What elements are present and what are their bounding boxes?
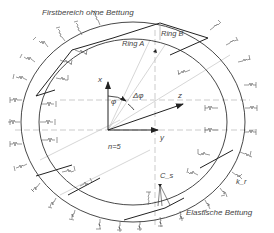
label-axis-x: x [98,76,102,84]
label-kr: k_r [236,178,246,186]
label-ring-a: Ring A [122,40,144,48]
label-top-region: Firstbereich ohne Bettung [42,9,134,17]
label-segments: n=5 [108,143,121,151]
center-lines [15,30,255,225]
tunnel-ring-diagram [0,0,274,233]
ring-a-inner [39,39,227,205]
ring-b-outer [21,22,245,222]
label-axis-z: z [178,92,182,100]
label-cs: C_s [160,172,173,180]
radial-lines [40,40,230,195]
axis-z [108,104,183,130]
segment-joints [36,23,233,220]
label-bedding: Elastische Bettung [186,209,252,217]
label-axis-y: y [160,134,164,142]
marker-cs [158,184,162,187]
label-phi: φ [111,98,116,106]
cs-lines [158,185,170,206]
inner-springs [40,50,218,205]
label-delta-phi: Δφ [133,92,144,100]
label-ring-b: Ring B [161,30,184,38]
